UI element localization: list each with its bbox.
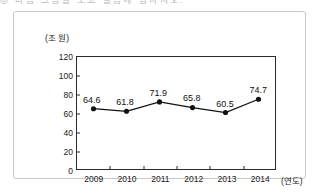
data-point-marker [124, 109, 129, 114]
x-tick-label: 2013 [218, 174, 237, 184]
x-tick-mark [110, 166, 111, 169]
line-series [77, 57, 275, 169]
data-point-label: 74.7 [250, 85, 268, 95]
y-tick-mark [77, 152, 80, 153]
data-point-label: 61.8 [116, 97, 134, 107]
y-tick-label: 60 [64, 109, 73, 119]
y-tick-mark [77, 114, 80, 115]
data-point-label: 64.6 [83, 95, 101, 105]
data-point-label: 60.5 [216, 99, 234, 109]
y-tick-mark [77, 95, 80, 96]
y-tick-label: 40 [64, 128, 73, 138]
x-tick-label: 2011 [151, 174, 169, 184]
y-tick-label: 100 [59, 71, 73, 81]
data-point-marker [223, 110, 228, 115]
clipped-header-text: ◎ 다음 그림을 보고 물음에 답하시오. [0, 0, 220, 5]
plot-area: 0204060801001202009201020112012201320146… [76, 56, 276, 170]
data-point-marker [190, 105, 195, 110]
x-tick-mark [177, 166, 178, 169]
y-tick-mark [77, 76, 80, 77]
x-tick-mark [143, 166, 144, 169]
y-tick-label: 120 [59, 52, 73, 62]
data-point-label: 65.8 [183, 93, 201, 103]
chart-figure-frame: (조 원) (연도) 02040608010012020092010201120… [13, 11, 306, 179]
y-tick-label: 20 [64, 147, 73, 157]
x-tick-mark [243, 166, 244, 169]
data-point-marker [157, 99, 162, 104]
y-axis-unit-label: (조 원) [45, 31, 69, 43]
x-tick-label: 2014 [251, 174, 270, 184]
y-tick-mark [77, 133, 80, 134]
data-point-marker [256, 97, 261, 102]
y-tick-label: 0 [68, 166, 73, 176]
x-tick-label: 2012 [184, 174, 203, 184]
data-point-label: 71.9 [150, 88, 168, 98]
x-tick-mark [210, 166, 211, 169]
x-axis-unit-label: (연도) [281, 174, 303, 186]
y-tick-label: 80 [64, 90, 73, 100]
data-point-marker [91, 106, 96, 111]
x-tick-label: 2010 [118, 174, 137, 184]
x-tick-label: 2009 [84, 174, 103, 184]
